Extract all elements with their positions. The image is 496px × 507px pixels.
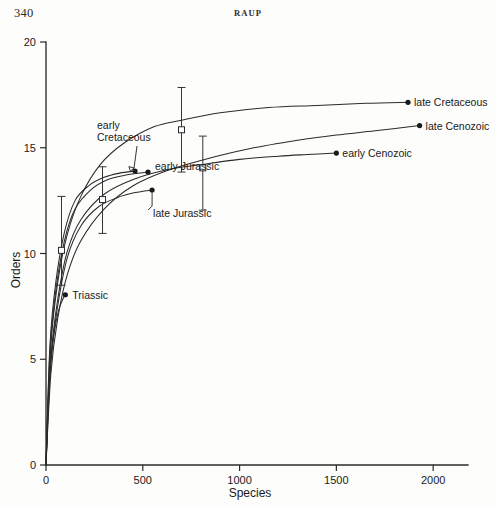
error-bar-marker [58,247,64,253]
point-label: late Cenozoic [426,120,490,132]
x-tick-label: 500 [134,474,152,486]
point-label: early Jurassic [155,160,219,172]
point-label: late Cretaceous [414,96,488,108]
point-label: Triassic [72,289,108,301]
x-tick-label: 1500 [324,474,348,486]
y-axis-title: Orders [9,252,23,289]
x-tick-label: 0 [43,474,49,486]
rarefaction-chart: 05101520 0500100015002000 late Cretaceou… [0,0,496,507]
point-label: late Jurassic [153,207,211,219]
leader-line-late-jurassic [148,193,152,210]
leader-line-early-cretaceous [134,146,137,168]
y-tick-label: 15 [24,142,36,154]
x-tick-label: 1000 [227,474,251,486]
y-tick-label: 10 [24,248,36,260]
point-label: early [97,119,121,131]
x-tick-label: 2000 [421,474,445,486]
point-label: Cretaceous [97,131,151,143]
data-point-late-cretaceous [405,100,410,105]
y-tick-label: 5 [30,353,36,365]
y-axis-ticks: 05101520 [24,36,46,471]
curve-early-cenozoic [46,153,336,465]
error-bar-marker [179,127,185,133]
point-label: early Cenozoic [342,147,411,159]
error-bar-marker [100,197,106,203]
data-point-triassic [63,292,68,297]
data-point-late-cenozoic [417,123,422,128]
figure-page: 340 RAUP 05101520 0500100015002000 late … [0,0,496,507]
axes [46,42,468,465]
data-point-late-jurassic [149,187,154,192]
x-axis-title: Species [229,486,272,500]
y-tick-label: 20 [24,36,36,48]
data-point-early-jurassic [145,169,150,174]
annotation-group: late Cretaceouslate Cenozoicearly Cenozo… [72,96,489,300]
data-point-early-cretaceous [132,168,137,173]
curve-early-cretaceous [46,171,135,465]
x-axis-ticks: 0500100015002000 [43,465,445,486]
data-point-early-cenozoic [334,150,339,155]
y-tick-label: 0 [30,459,36,471]
